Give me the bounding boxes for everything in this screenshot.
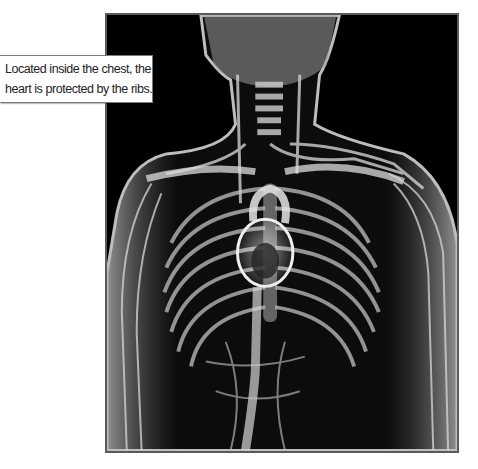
heart-chamber — [251, 243, 279, 279]
caption-line-2: heart is protected by the ribs. — [5, 79, 148, 99]
caption-callout: Located inside the chest, the heart is p… — [0, 55, 153, 103]
torso-xray-graphic — [107, 15, 457, 451]
anatomy-illustration — [105, 13, 459, 453]
caption-line-1: Located inside the chest, the — [5, 59, 148, 79]
